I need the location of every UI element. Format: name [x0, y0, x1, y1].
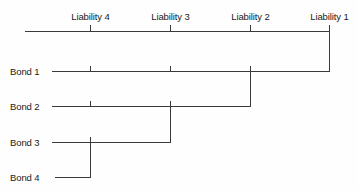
bond-label-bond-3: Bond 3 — [10, 137, 40, 148]
bond-label-bond-4: Bond 4 — [10, 172, 40, 183]
bond-1-line-group — [52, 32, 330, 72]
axis-label-liability-4: Liability 4 — [46, 11, 135, 22]
bond-2-line-group — [52, 72, 251, 107]
liability-axis-group — [25, 25, 330, 32]
diagram-canvas — [0, 0, 358, 191]
bond-label-bond-2: Bond 2 — [10, 101, 40, 112]
axis-label-liability-2: Liability 2 — [206, 11, 295, 22]
axis-label-liability-3: Liability 3 — [126, 11, 215, 22]
bond-4-line-group — [55, 143, 91, 178]
bond-liability-diagram: Liability 4 Liability 3 Liability 2 Liab… — [0, 0, 358, 191]
bond-3-line-group — [52, 107, 171, 143]
bond-label-bond-1: Bond 1 — [10, 66, 40, 77]
axis-label-liability-1: Liability 1 — [285, 11, 358, 22]
